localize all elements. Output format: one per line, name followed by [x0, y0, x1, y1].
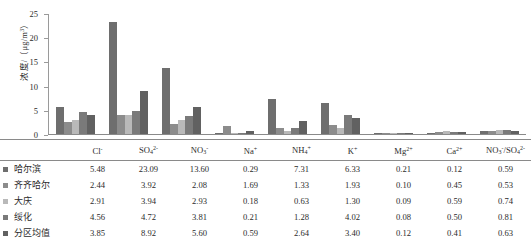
table-cell: 5.60 [174, 225, 225, 239]
bar[interactable] [488, 131, 496, 134]
table-cell: 1.30 [327, 193, 378, 209]
legend-item-label: 分区均值 [14, 228, 50, 238]
bar-group [473, 14, 526, 134]
bar[interactable] [427, 133, 435, 134]
table-cell: 13.60 [174, 161, 225, 178]
bar[interactable] [321, 103, 329, 134]
y-tick-label-20: 20 [30, 33, 39, 43]
bar[interactable] [329, 125, 337, 134]
bar[interactable] [109, 22, 117, 134]
table-cell: 2.64 [276, 225, 327, 239]
bar[interactable] [291, 128, 299, 134]
bar[interactable] [435, 132, 443, 134]
bar[interactable] [223, 126, 231, 134]
table-cell: 0.10 [378, 177, 429, 193]
table-cell: 2.93 [174, 193, 225, 209]
bar[interactable] [79, 112, 87, 134]
legend-swatch-icon [3, 183, 8, 188]
bar[interactable] [337, 128, 345, 134]
bar[interactable] [344, 115, 352, 134]
table-cell: 0.12 [429, 161, 480, 178]
bar[interactable] [299, 121, 307, 134]
bar[interactable] [458, 132, 466, 134]
legend-item-label: 齐齐哈尔 [14, 180, 50, 190]
plot-area: 0510152025 [48, 14, 526, 135]
bar[interactable] [117, 115, 125, 134]
legend-swatch-icon [3, 199, 8, 204]
bar-group [367, 14, 420, 134]
legend-item-label: 绥化 [14, 212, 32, 222]
bar[interactable] [170, 124, 178, 134]
legend-item-label: 哈尔滨 [14, 164, 41, 174]
bar[interactable] [238, 133, 246, 134]
table-cell: 0.50 [429, 209, 480, 225]
legend-swatch-icon [3, 167, 8, 172]
bar-group [102, 14, 155, 134]
bar[interactable] [132, 111, 140, 134]
table-cell: 0.53 [480, 177, 531, 193]
bar[interactable] [56, 107, 64, 134]
bar[interactable] [193, 107, 201, 134]
table-cell: 2.08 [174, 177, 225, 193]
table-row: 分区均值3.858.925.600.592.643.400.120.410.63 [0, 225, 531, 239]
table-body: 哈尔滨5.4823.0913.600.297.316.330.210.120.5… [0, 161, 531, 240]
table-row: 大庆2.913.942.930.180.631.300.090.590.74 [0, 193, 531, 209]
bar[interactable] [231, 133, 239, 134]
table-cell: 6.33 [327, 161, 378, 178]
bar-group [261, 14, 314, 134]
legend-item-2[interactable]: 齐齐哈尔 [0, 177, 72, 193]
bar[interactable] [178, 120, 186, 134]
table-cell: 4.02 [327, 209, 378, 225]
bar[interactable] [352, 118, 360, 134]
bar[interactable] [503, 130, 511, 134]
y-tick-label-10: 10 [30, 82, 39, 92]
bar[interactable] [480, 131, 488, 134]
table-cell: 3.81 [174, 209, 225, 225]
y-tick-10: 10 [44, 87, 48, 88]
bar[interactable] [268, 99, 276, 134]
bar[interactable] [382, 133, 390, 134]
y-tick-0: 0 [44, 135, 48, 136]
bar[interactable] [140, 91, 148, 134]
bar[interactable] [185, 116, 193, 134]
table-cell: 0.59 [480, 161, 531, 178]
y-tick-label-5: 5 [34, 106, 38, 116]
bar[interactable] [276, 128, 284, 134]
table-header-row: Cl-SO42-NO3-Na+NH4+K+Mg2+Ca2+NO3-/SO42- [0, 140, 531, 161]
bar[interactable] [443, 131, 451, 134]
table-cell: 0.63 [480, 225, 531, 239]
y-tick-5: 5 [44, 111, 48, 112]
bar[interactable] [397, 133, 405, 134]
table-column-header: SO42- [123, 140, 174, 161]
legend-item-3[interactable]: 大庆 [0, 193, 72, 209]
bar[interactable] [390, 133, 398, 134]
bar[interactable] [87, 115, 95, 134]
bar[interactable] [64, 122, 72, 134]
bar[interactable] [72, 120, 80, 134]
table-cell: 0.12 [378, 225, 429, 239]
legend-swatch-icon [3, 215, 8, 220]
bar[interactable] [246, 131, 254, 134]
table-cell: 4.56 [72, 209, 123, 225]
bar[interactable] [511, 131, 519, 134]
bar[interactable] [284, 131, 292, 134]
legend-item-1[interactable]: 哈尔滨 [0, 161, 72, 178]
legend-item-5[interactable]: 分区均值 [0, 225, 72, 239]
table-cell: 0.59 [225, 225, 276, 239]
bar-group [49, 14, 102, 134]
bar[interactable] [405, 133, 413, 134]
bar[interactable] [450, 132, 458, 134]
data-table: Cl-SO42-NO3-Na+NH4+K+Mg2+Ca2+NO3-/SO42- … [0, 139, 531, 239]
y-axis-label: 浓度/（μg/m3） [17, 5, 29, 95]
bar[interactable] [125, 115, 133, 134]
table-cell: 0.21 [378, 161, 429, 178]
bar[interactable] [162, 68, 170, 134]
bar[interactable] [374, 133, 382, 134]
table-cell: 3.94 [123, 193, 174, 209]
bar[interactable] [496, 130, 504, 134]
bar[interactable] [215, 133, 223, 134]
table-cell: 0.09 [378, 193, 429, 209]
chart-page: 浓度/（μg/m3） 0510152025 Cl-SO42-NO3-Na+NH4… [0, 0, 531, 239]
bar-group [314, 14, 367, 134]
legend-item-4[interactable]: 绥化 [0, 209, 72, 225]
